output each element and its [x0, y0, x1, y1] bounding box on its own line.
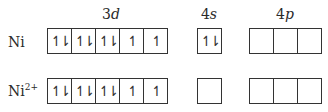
orbital-box: ↿⇂ — [48, 79, 72, 103]
orbital-box: ↿ — [144, 29, 167, 53]
orbital-box: ↿⇂ — [96, 29, 120, 53]
orbital-box: ↿ — [120, 29, 144, 53]
orbital-box — [198, 79, 221, 103]
orbital-box: ↿⇂ — [198, 29, 221, 53]
orbital-box: ↿⇂ — [96, 79, 120, 103]
header-4s: 4s — [194, 6, 224, 22]
orbital-box: ↿ — [120, 79, 144, 103]
ni2plus-3d-orbitals: ↿⇂ ↿⇂ ↿⇂ ↿ ↿ — [47, 78, 168, 104]
header-3d: 3d — [96, 6, 126, 22]
ni-4s-orbital: ↿⇂ — [197, 28, 222, 54]
orbital-box — [298, 79, 321, 103]
orbital-box — [250, 79, 274, 103]
orbital-box — [298, 29, 321, 53]
orbital-box — [274, 29, 298, 53]
orbital-box — [274, 79, 298, 103]
header-4p: 4p — [270, 6, 300, 22]
row-label-ni2plus: Ni2+ — [8, 82, 38, 99]
ni-4p-orbitals — [249, 28, 322, 54]
orbital-box: ↿⇂ — [48, 29, 72, 53]
row-label-ni: Ni — [8, 33, 25, 50]
ni2plus-4s-orbital — [197, 78, 222, 104]
orbital-box — [250, 29, 274, 53]
orbital-box: ↿⇂ — [72, 29, 96, 53]
ni2plus-4p-orbitals — [249, 78, 322, 104]
orbital-box: ↿⇂ — [72, 79, 96, 103]
ni-3d-orbitals: ↿⇂ ↿⇂ ↿⇂ ↿ ↿ — [47, 28, 168, 54]
orbital-box: ↿ — [144, 79, 167, 103]
